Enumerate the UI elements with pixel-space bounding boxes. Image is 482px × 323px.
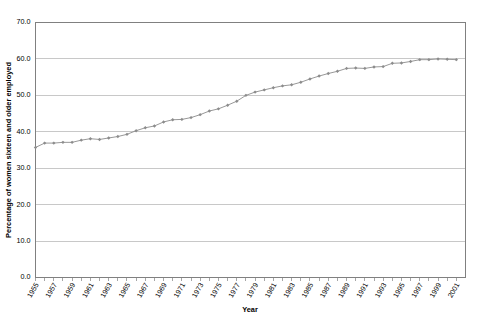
data-point-marker — [80, 138, 83, 141]
data-point-marker — [198, 113, 201, 116]
data-point-marker — [381, 65, 384, 68]
x-tick-label: 1969 — [153, 281, 169, 299]
series-line — [36, 59, 457, 148]
x-tick-label: 1977 — [226, 281, 242, 299]
data-point-marker — [418, 58, 421, 61]
x-tick-label: 1975 — [208, 281, 224, 299]
data-point-marker — [34, 146, 37, 149]
y-tick-label: 50.0 — [17, 90, 31, 99]
x-axis-title: Year — [242, 305, 258, 314]
data-point-marker — [446, 58, 449, 61]
data-point-marker — [372, 65, 375, 68]
data-point-marker — [70, 141, 73, 144]
data-point-marker — [281, 84, 284, 87]
data-point-marker — [400, 61, 403, 64]
data-point-marker — [98, 138, 101, 141]
data-point-marker — [226, 103, 229, 106]
x-tick-label: 1973 — [190, 281, 206, 299]
data-point-marker — [89, 137, 92, 140]
line-chart: 0.010.020.030.040.050.060.070.0 19551957… — [0, 0, 482, 323]
data-point-marker — [327, 72, 330, 75]
plot-frame — [36, 23, 466, 278]
y-tick-label: 40.0 — [17, 127, 31, 136]
data-point-marker — [290, 83, 293, 86]
data-point-marker — [336, 70, 339, 73]
x-tick-label: 1979 — [245, 281, 261, 299]
data-point-marker — [455, 58, 458, 61]
data-point-marker — [116, 135, 119, 138]
x-tick-label: 1957 — [43, 281, 59, 299]
data-series-group — [34, 57, 458, 149]
y-tick-label: 30.0 — [17, 163, 31, 172]
data-point-marker — [427, 58, 430, 61]
data-point-marker — [153, 124, 156, 127]
data-point-marker — [345, 67, 348, 70]
x-tick-label: 1967 — [135, 281, 151, 299]
y-tick-label: 60.0 — [17, 54, 31, 63]
data-point-marker — [363, 67, 366, 70]
gridlines-group — [36, 23, 466, 242]
x-tick-label: 1991 — [354, 281, 370, 299]
data-point-marker — [263, 88, 266, 91]
x-tick-label: 1993 — [373, 281, 389, 299]
x-tick-label: 1955 — [25, 281, 41, 299]
data-point-marker — [299, 81, 302, 84]
x-tick-label: 1985 — [299, 281, 315, 299]
y-axis-tick-labels: 0.010.020.030.040.050.060.070.0 — [17, 17, 31, 281]
data-point-marker — [308, 77, 311, 80]
data-point-marker — [189, 116, 192, 119]
data-point-marker — [272, 86, 275, 89]
data-point-marker — [144, 126, 147, 129]
data-point-marker — [171, 118, 174, 121]
data-point-marker — [180, 118, 183, 121]
data-point-marker — [125, 133, 128, 136]
data-point-marker — [436, 57, 439, 60]
y-axis-title: Percentage of women sixteen and older em… — [4, 62, 13, 238]
x-tick-label: 1965 — [116, 281, 132, 299]
data-point-marker — [409, 60, 412, 63]
x-tick-label: 1961 — [80, 281, 96, 299]
x-tick-label: 1997 — [409, 281, 425, 299]
data-point-marker — [107, 136, 110, 139]
data-point-marker — [208, 109, 211, 112]
data-point-marker — [162, 120, 165, 123]
x-tick-label: 1963 — [98, 281, 114, 299]
data-point-marker — [253, 90, 256, 93]
data-point-marker — [52, 141, 55, 144]
x-tick-label: 1989 — [336, 281, 352, 299]
data-point-marker — [391, 62, 394, 65]
chart-container: 0.010.020.030.040.050.060.070.0 19551957… — [0, 0, 482, 323]
x-tick-label: 1981 — [263, 281, 279, 299]
x-tick-label: 1987 — [318, 281, 334, 299]
y-tick-label: 70.0 — [17, 17, 31, 26]
data-point-marker — [217, 107, 220, 110]
x-tick-label: 1971 — [171, 281, 187, 299]
data-point-marker — [43, 141, 46, 144]
x-tick-label: 2001 — [446, 281, 462, 299]
x-tick-label: 1995 — [391, 281, 407, 299]
data-point-marker — [317, 74, 320, 77]
data-point-marker — [354, 66, 357, 69]
x-tick-label: 1959 — [62, 281, 78, 299]
x-axis-tick-labels: 1955195719591961196319651967196919711973… — [25, 281, 462, 299]
y-tick-label: 20.0 — [17, 200, 31, 209]
data-point-marker — [61, 141, 64, 144]
plot-border — [36, 23, 466, 278]
x-tick-label: 1983 — [281, 281, 297, 299]
y-tick-label: 10.0 — [17, 236, 31, 245]
x-tick-label: 1999 — [427, 281, 443, 299]
y-tick-label: 0.0 — [21, 272, 31, 281]
